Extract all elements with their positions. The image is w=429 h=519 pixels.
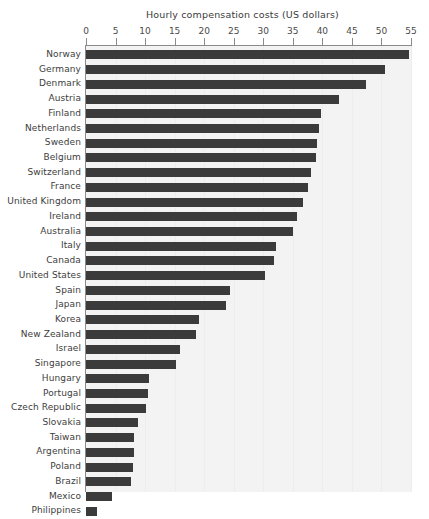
- category-label: Mexico: [49, 491, 81, 501]
- bar-row: New Zealand: [0, 328, 429, 343]
- x-tick-label: 55: [405, 26, 416, 36]
- bar: [86, 492, 112, 501]
- bar-row: Netherlands: [0, 122, 429, 137]
- bar-row: Hungary: [0, 372, 429, 387]
- bar-row: France: [0, 180, 429, 195]
- bar: [86, 477, 131, 486]
- bar: [86, 65, 385, 74]
- category-label: Singapore: [35, 358, 81, 368]
- bar-row: Poland: [0, 460, 429, 475]
- bar-row: United Kingdom: [0, 195, 429, 210]
- bar-row: Korea: [0, 313, 429, 328]
- bar-row: Sweden: [0, 136, 429, 151]
- bar: [86, 448, 134, 457]
- category-label: Philippines: [31, 505, 81, 515]
- bar-row: Australia: [0, 225, 429, 240]
- x-tick-mark: [322, 38, 323, 45]
- bar-row: Singapore: [0, 357, 429, 372]
- bar: [86, 507, 97, 516]
- bar-row: Taiwan: [0, 431, 429, 446]
- bar-row: Belgium: [0, 151, 429, 166]
- bar: [86, 198, 303, 207]
- bar: [86, 301, 226, 310]
- bar-row: Czech Republic: [0, 401, 429, 416]
- bar: [86, 139, 317, 148]
- category-label: Canada: [46, 255, 81, 265]
- bar-row: Ireland: [0, 210, 429, 225]
- category-label: Brazil: [55, 476, 81, 486]
- bar-row: Finland: [0, 107, 429, 122]
- x-tick-mark: [411, 38, 412, 45]
- category-label: Czech Republic: [11, 402, 81, 412]
- x-tick-mark: [116, 38, 117, 45]
- bar-row: Argentina: [0, 445, 429, 460]
- bar: [86, 242, 276, 251]
- bar-row: Brazil: [0, 475, 429, 490]
- category-label: Italy: [61, 240, 81, 250]
- bar: [86, 404, 146, 413]
- bar: [86, 315, 199, 324]
- category-label: Taiwan: [50, 432, 81, 442]
- bar: [86, 168, 311, 177]
- category-label: Norway: [46, 49, 81, 59]
- bar-row: Italy: [0, 239, 429, 254]
- bar: [86, 183, 308, 192]
- bar-row: Norway: [0, 48, 429, 63]
- x-tick-mark: [293, 38, 294, 45]
- category-label: France: [50, 181, 81, 191]
- category-label: Netherlands: [25, 123, 81, 133]
- bar: [86, 124, 319, 133]
- category-label: Sweden: [45, 137, 81, 147]
- x-tick-mark: [234, 38, 235, 45]
- category-label: Denmark: [39, 78, 81, 88]
- bar: [86, 80, 366, 89]
- bar: [86, 345, 180, 354]
- category-label: Japan: [55, 299, 81, 309]
- x-tick-label: 10: [139, 26, 150, 36]
- bar: [86, 153, 316, 162]
- x-tick-mark: [263, 38, 264, 45]
- category-label: Germany: [39, 64, 81, 74]
- bar-row: Switzerland: [0, 166, 429, 181]
- bar: [86, 374, 149, 383]
- x-tick-mark: [145, 38, 146, 45]
- bar-row: United States: [0, 269, 429, 284]
- x-tick-mark: [175, 38, 176, 45]
- bar: [86, 418, 138, 427]
- category-label: Portugal: [43, 388, 81, 398]
- category-label: Spain: [55, 285, 81, 295]
- bar: [86, 109, 321, 118]
- bar-row: Canada: [0, 254, 429, 269]
- bar: [86, 389, 148, 398]
- x-tick-mark: [381, 38, 382, 45]
- x-tick-label: 20: [198, 26, 209, 36]
- x-tick-label: 0: [83, 26, 89, 36]
- category-label: Ireland: [49, 211, 81, 221]
- bar-row: Spain: [0, 284, 429, 299]
- x-tick-mark: [204, 38, 205, 45]
- category-label: New Zealand: [21, 329, 81, 339]
- bar-row: Portugal: [0, 387, 429, 402]
- bar-row: Japan: [0, 298, 429, 313]
- category-label: Korea: [55, 314, 81, 324]
- category-label: United States: [19, 270, 81, 280]
- x-tick-label: 30: [258, 26, 269, 36]
- category-label: Switzerland: [27, 167, 81, 177]
- x-tick-label: 5: [113, 26, 119, 36]
- x-tick-label: 45: [346, 26, 357, 36]
- bar: [86, 227, 293, 236]
- category-label: Argentina: [36, 446, 81, 456]
- chart-title: Hourly compensation costs (US dollars): [0, 9, 429, 20]
- category-label: Israel: [56, 343, 81, 353]
- x-axis-line: [86, 45, 412, 46]
- category-label: Austria: [49, 93, 82, 103]
- bar-row: Mexico: [0, 490, 429, 505]
- bar-row: Slovakia: [0, 416, 429, 431]
- bar: [86, 433, 134, 442]
- x-tick-label: 25: [228, 26, 239, 36]
- bar: [86, 463, 133, 472]
- bar-row: Philippines: [0, 504, 429, 519]
- bar: [86, 256, 274, 265]
- bar-row: Denmark: [0, 77, 429, 92]
